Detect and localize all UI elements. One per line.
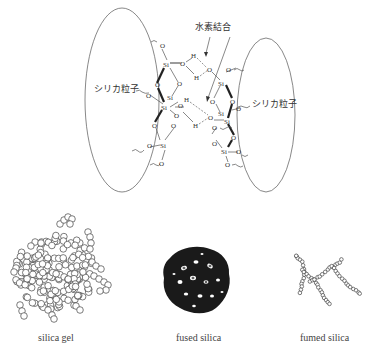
svg-text:O: O <box>178 102 183 110</box>
svg-text:Si: Si <box>161 104 167 112</box>
svg-text:Si: Si <box>218 80 224 88</box>
svg-text:O: O <box>155 81 160 89</box>
svg-text:O: O <box>212 124 217 132</box>
svg-text:O: O <box>174 112 179 120</box>
svg-text:O: O <box>226 66 231 74</box>
svg-text:Si: Si <box>224 118 230 126</box>
svg-text:O: O <box>159 160 164 168</box>
svg-text:O: O <box>160 42 165 50</box>
svg-text:O: O <box>236 148 241 156</box>
caption-silica-gel: silica gel <box>38 332 74 343</box>
svg-text:Si: Si <box>221 148 227 156</box>
fumed-silica-structure <box>294 254 361 306</box>
svg-text:O: O <box>180 60 185 68</box>
hydrogen-bond-label: 水素結合 <box>195 21 231 32</box>
left-silica-particle <box>85 8 159 192</box>
silica-gel-structure <box>11 214 112 323</box>
svg-text:H: H <box>194 74 199 82</box>
svg-text:O: O <box>208 114 213 122</box>
svg-text:O: O <box>212 140 217 148</box>
svg-text:O: O <box>231 134 236 142</box>
svg-text:O: O <box>171 122 176 130</box>
svg-text:Si: Si <box>160 142 166 150</box>
right-silica-particle <box>237 38 295 192</box>
svg-text:O: O <box>230 98 235 106</box>
right-siloxane-network: O Si O O Si O Si O O O Si O O <box>210 66 248 169</box>
fused-silica-structure <box>163 247 230 313</box>
svg-text:O: O <box>152 122 157 130</box>
left-siloxane-network: O Si O O O Si Si O O O O O Si O <box>132 41 183 169</box>
silica-diagram: 水素結合 シリカ粒子 シリカ粒子 O Si O O O Si <box>0 0 369 349</box>
svg-text:O: O <box>146 92 151 100</box>
svg-text:H: H <box>191 52 196 60</box>
svg-text:Si: Si <box>167 94 173 102</box>
svg-text:Si: Si <box>163 61 169 69</box>
svg-text:O: O <box>236 105 241 113</box>
caption-fused-silica: fused silica <box>176 332 222 343</box>
svg-text:H: H <box>184 96 189 104</box>
svg-text:O: O <box>210 98 215 106</box>
svg-text:O: O <box>177 80 182 88</box>
svg-text:Si: Si <box>218 110 224 118</box>
svg-text:O: O <box>147 142 152 150</box>
silica-particle-label-left: シリカ粒子 <box>94 83 139 94</box>
svg-text:O: O <box>225 161 230 169</box>
caption-fumed-silica: fumed silica <box>300 332 350 343</box>
svg-text:O: O <box>207 66 212 74</box>
silica-particle-label-right: シリカ粒子 <box>252 98 297 109</box>
svg-text:H: H <box>193 122 198 130</box>
